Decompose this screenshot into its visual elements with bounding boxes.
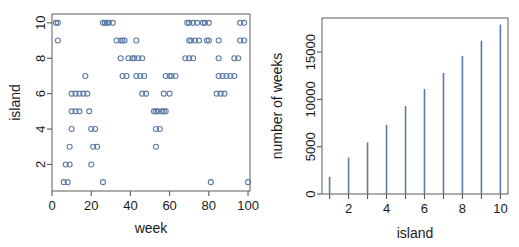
scatter-point [134, 38, 139, 43]
bar-x-axis-title: island [397, 225, 434, 241]
bar-plot-frame [322, 18, 508, 194]
bar-y-tick-label: 5000 [303, 132, 318, 161]
scatter-y-tick-labels: 246810 [33, 16, 48, 168]
scatter-y-axis-title: island [7, 84, 23, 121]
scatter-point [161, 91, 166, 96]
bar-x-tick-label: 8 [459, 201, 466, 216]
scatter-x-tick-labels: 020406080100 [48, 198, 259, 213]
bar-x-tick-label: 2 [345, 201, 352, 216]
scatter-point-layer [53, 20, 250, 184]
scatter-x-tick-label: 40 [123, 198, 137, 213]
bar-y-axis-title: number of weeks [269, 53, 285, 160]
scatter-y-tick-label: 10 [33, 16, 48, 30]
bar-y-tick-label: 0 [303, 190, 318, 197]
bar-tick-marks [317, 52, 500, 199]
bar-x-tick-label: 10 [493, 201, 507, 216]
bar-plot-svg: 246810 050001000015000 island number of … [260, 0, 519, 247]
scatter-x-tick-label: 100 [237, 198, 259, 213]
scatter-x-axis-title: week [134, 220, 169, 236]
figure-root: 020406080100 246810 week island 246810 0… [0, 0, 519, 247]
scatter-y-tick-label: 6 [33, 90, 48, 97]
scatter-panel: 020406080100 246810 week island [0, 0, 260, 247]
scatter-y-tick-label: 8 [33, 55, 48, 62]
scatter-point [89, 162, 94, 167]
scatter-point [69, 127, 74, 132]
scatter-point [153, 144, 158, 149]
scatter-plot-frame [52, 14, 250, 191]
bar-y-tick-label: 15000 [303, 34, 318, 70]
bar-layer [330, 25, 501, 194]
bar-x-tick-label: 4 [383, 201, 390, 216]
scatter-point [87, 109, 92, 114]
scatter-point [208, 180, 213, 185]
scatter-x-tick-label: 0 [48, 198, 55, 213]
scatter-point [83, 73, 88, 78]
bar-x-tick-label: 6 [421, 201, 428, 216]
scatter-x-tick-label: 80 [202, 198, 216, 213]
bar-x-tick-labels: 246810 [345, 201, 508, 216]
bar-panel: 246810 050001000015000 island number of … [260, 0, 519, 247]
scatter-point [167, 91, 172, 96]
scatter-point [216, 38, 221, 43]
bar-y-tick-labels: 050001000015000 [303, 34, 318, 198]
scatter-y-tick-label: 2 [33, 161, 48, 168]
scatter-y-tick-label: 4 [33, 125, 48, 132]
scatter-point [118, 56, 123, 61]
scatter-point [67, 144, 72, 149]
scatter-plot-svg: 020406080100 246810 week island [0, 0, 260, 247]
scatter-point [100, 180, 105, 185]
scatter-point [55, 38, 60, 43]
scatter-x-tick-label: 60 [162, 198, 176, 213]
scatter-point [216, 56, 221, 61]
bar-y-tick-label: 10000 [303, 81, 318, 117]
scatter-x-tick-label: 20 [84, 198, 98, 213]
